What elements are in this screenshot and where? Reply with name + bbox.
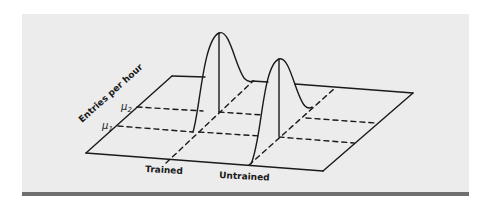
mu1-level-line-mid: [199, 132, 260, 136]
plane-back-edge-left: [172, 76, 205, 77]
mu2-level-line-left: [137, 107, 203, 111]
mu1-level-line-right: [279, 137, 354, 143]
mu2-label: μ2: [120, 101, 132, 114]
trained-label: Trained: [145, 164, 183, 176]
plane-right-edge: [323, 93, 413, 171]
mu1-label: μ1: [101, 120, 113, 133]
untrained-distribution-curve: [251, 59, 312, 164]
mu2-level-line-mid: [219, 112, 263, 115]
trained-depth-line: [166, 82, 252, 163]
mu2-level-line-right: [306, 118, 375, 123]
plane-back-edge-right: [295, 84, 413, 93]
distribution-diagram: Entries per hour μ2 μ1 Trained Untrained: [0, 0, 492, 213]
plane-left-edge: [86, 76, 172, 153]
mu1-level-line-left: [118, 126, 193, 132]
untrained-depth-line: [249, 88, 335, 165]
trained-distribution-curve: [193, 33, 254, 132]
plane-front-edge: [86, 153, 323, 171]
untrained-label: Untrained: [219, 170, 270, 183]
y-axis-label: Entries per hour: [77, 61, 145, 124]
